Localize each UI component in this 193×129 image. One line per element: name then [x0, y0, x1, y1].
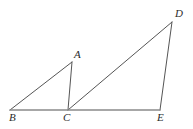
segment-CD [68, 22, 172, 110]
segment-BA [10, 62, 72, 110]
vertex-label-E: E [157, 112, 164, 123]
segment-DE [160, 22, 172, 110]
vertex-label-D: D [175, 8, 183, 19]
vertex-label-A: A [74, 49, 81, 60]
vertex-label-C: C [63, 112, 70, 123]
segment-AC [68, 62, 72, 110]
figure-canvas [0, 0, 193, 129]
segments-group [10, 22, 172, 110]
geometry-figure: A B C D E [0, 0, 193, 129]
vertex-label-B: B [9, 112, 16, 123]
